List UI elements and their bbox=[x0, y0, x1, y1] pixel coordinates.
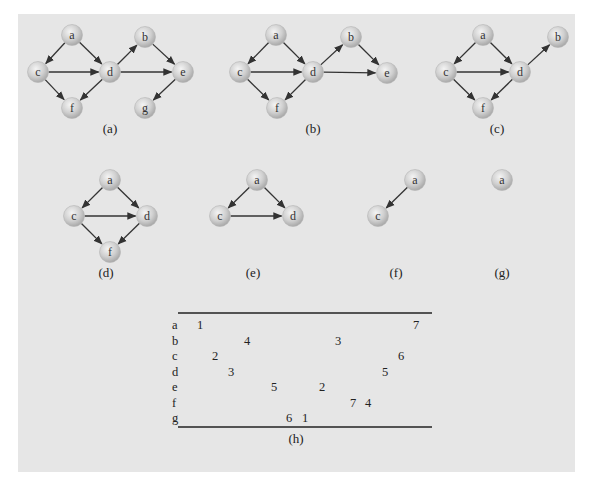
node-label: c bbox=[375, 209, 380, 223]
row-label: g bbox=[172, 411, 179, 425]
node-label: e bbox=[180, 65, 185, 79]
node-label: d bbox=[290, 209, 296, 223]
node-a-b: b bbox=[135, 27, 156, 48]
node-label: d bbox=[144, 209, 150, 223]
node-e-a: a bbox=[247, 170, 268, 191]
table-row-f: f74 bbox=[172, 396, 372, 410]
node-label: a bbox=[273, 28, 279, 42]
node-label: b bbox=[348, 30, 354, 44]
edge-c-d-f bbox=[491, 79, 512, 100]
caption-g: (g) bbox=[494, 265, 509, 280]
cell-value: 4 bbox=[244, 334, 251, 348]
node-g-a: a bbox=[492, 170, 513, 191]
node-b-a: a bbox=[266, 25, 287, 46]
edge-b-a-c bbox=[248, 43, 269, 64]
node-f-a: a bbox=[405, 170, 426, 191]
node-label: b bbox=[142, 30, 148, 44]
node-f-c: c bbox=[368, 206, 389, 227]
edge-b-b-e bbox=[358, 44, 378, 64]
edge-b-d-b bbox=[321, 45, 343, 65]
node-label: c bbox=[443, 65, 448, 79]
cell-value: 5 bbox=[382, 365, 388, 379]
edge-a-a-c bbox=[46, 43, 65, 64]
node-c-b: b bbox=[548, 27, 569, 48]
node-d-a: a bbox=[100, 170, 121, 191]
row-label: b bbox=[172, 334, 178, 348]
node-b-c: c bbox=[230, 62, 251, 83]
node-b-b: b bbox=[341, 27, 362, 48]
node-label: a bbox=[254, 173, 260, 187]
edge-f-a-c bbox=[386, 187, 407, 208]
caption-e: (e) bbox=[246, 265, 260, 280]
node-c-d: d bbox=[510, 62, 531, 83]
caption-c: (c) bbox=[490, 121, 504, 136]
node-label: b bbox=[555, 30, 561, 44]
edge-a-a-d bbox=[80, 42, 102, 64]
edge-d-a-c bbox=[82, 187, 102, 207]
node-label: f bbox=[108, 245, 112, 259]
caption-d: (d) bbox=[98, 265, 113, 280]
node-label: a bbox=[499, 173, 505, 187]
edge-e-a-c bbox=[228, 187, 249, 208]
edge-c-a-d bbox=[490, 42, 511, 63]
node-label: f bbox=[70, 101, 74, 115]
node-label: a bbox=[480, 28, 486, 42]
cell-value: 4 bbox=[365, 396, 372, 410]
node-label: d bbox=[517, 65, 523, 79]
edge-e-a-d bbox=[264, 187, 284, 207]
node-a-a: a bbox=[62, 25, 83, 46]
edge-a-b-e bbox=[153, 44, 175, 64]
table-row-e: e52 bbox=[172, 380, 325, 394]
node-e-c: c bbox=[210, 206, 231, 227]
row-label: e bbox=[172, 380, 178, 394]
table-row-a: a17 bbox=[172, 318, 419, 332]
edge-a-d-f bbox=[80, 79, 102, 100]
table-h: a17b43c26d35e52f74g61(h) bbox=[172, 313, 432, 446]
node-label: d bbox=[107, 65, 113, 79]
cell-value: 7 bbox=[413, 318, 419, 332]
cell-value: 6 bbox=[286, 411, 292, 425]
row-label: f bbox=[172, 396, 177, 410]
node-label: a bbox=[412, 173, 418, 187]
figure-graphs: acdfbegacdfbeacdfbacdfacdaca (a)(b)(c)(d… bbox=[0, 0, 592, 488]
node-label: c bbox=[217, 209, 222, 223]
edge-b-d-f bbox=[285, 79, 305, 99]
nodes-layer: acdfbegacdfbeacdfbacdfacdaca bbox=[28, 25, 569, 263]
edge-b-d-e bbox=[323, 72, 375, 73]
node-b-d: d bbox=[303, 62, 324, 83]
edge-c-a-c bbox=[454, 42, 475, 63]
row-label: c bbox=[172, 349, 178, 363]
cell-value: 1 bbox=[197, 318, 203, 332]
cell-value: 3 bbox=[335, 334, 341, 348]
node-label: c bbox=[35, 65, 40, 79]
edge-a-d-b bbox=[117, 45, 136, 64]
node-label: a bbox=[69, 28, 75, 42]
node-label: e bbox=[384, 66, 389, 80]
table-row-b: b43 bbox=[172, 334, 341, 348]
caption-b: (b) bbox=[305, 121, 320, 136]
row-label: a bbox=[172, 318, 178, 332]
node-a-g: g bbox=[135, 98, 156, 119]
node-a-f: f bbox=[62, 98, 83, 119]
cell-value: 7 bbox=[350, 396, 356, 410]
cell-value: 3 bbox=[228, 365, 234, 379]
node-c-f: f bbox=[473, 98, 494, 119]
caption-f: (f) bbox=[390, 265, 403, 280]
node-d-d: d bbox=[137, 206, 158, 227]
edge-d-d-f bbox=[118, 223, 139, 244]
cell-value: 1 bbox=[302, 411, 308, 425]
node-label: a bbox=[107, 173, 113, 187]
node-d-c: c bbox=[64, 206, 85, 227]
node-a-e: e bbox=[173, 62, 194, 83]
node-c-c: c bbox=[436, 62, 457, 83]
edge-c-c-f bbox=[454, 79, 475, 100]
node-c-a: a bbox=[473, 25, 494, 46]
node-label: c bbox=[71, 209, 76, 223]
caption-a: (a) bbox=[103, 121, 117, 136]
node-b-f: f bbox=[267, 98, 288, 119]
cell-value: 5 bbox=[271, 380, 277, 394]
edge-a-e-g bbox=[153, 79, 175, 100]
edge-d-c-f bbox=[81, 223, 101, 243]
node-label: d bbox=[310, 65, 316, 79]
row-label: d bbox=[172, 365, 179, 379]
